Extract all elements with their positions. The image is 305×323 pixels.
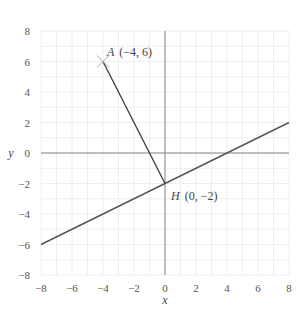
point-a-coords: (−4, 6) <box>119 45 152 59</box>
x-axis-label: x <box>161 293 168 307</box>
tick-labels: −8−6−4−20246886420−2−4−6−8 <box>18 25 292 294</box>
x-tick-label: 6 <box>255 282 261 294</box>
y-tick-label: −2 <box>18 178 30 190</box>
x-tick-label: −8 <box>35 282 47 294</box>
x-tick-label: 4 <box>224 282 230 294</box>
x-tick-label: −4 <box>97 282 109 294</box>
point-a-label: A (−4, 6) <box>106 45 152 59</box>
y-tick-label: −6 <box>18 239 30 251</box>
y-tick-label: 2 <box>25 117 31 129</box>
point-h-label: H (0, −2) <box>170 189 217 203</box>
coordinate-plane: −8−6−4−20246886420−2−4−6−8 A (−4, 6) H (… <box>0 0 305 323</box>
point-h-coords: (0, −2) <box>185 189 218 203</box>
point-a-name: A <box>106 45 115 59</box>
y-tick-label: −4 <box>18 208 30 220</box>
y-tick-label: −8 <box>18 269 30 281</box>
y-tick-label: 0 <box>25 147 31 159</box>
y-axis-label: y <box>7 146 14 160</box>
y-tick-label: 6 <box>25 56 31 68</box>
x-tick-label: 2 <box>193 282 199 294</box>
point-h-name: H <box>170 189 181 203</box>
x-tick-label: −6 <box>66 282 78 294</box>
y-tick-label: 4 <box>25 86 31 98</box>
axes <box>41 31 289 275</box>
y-tick-label: 8 <box>25 25 31 37</box>
x-tick-label: −2 <box>128 282 140 294</box>
x-tick-label: 8 <box>286 282 292 294</box>
